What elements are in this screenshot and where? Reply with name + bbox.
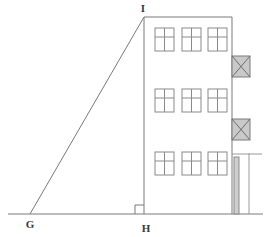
vertex-label-i: I bbox=[141, 2, 145, 14]
window bbox=[155, 28, 174, 51]
downspout-pipe bbox=[234, 157, 239, 214]
vertex-label-h: H bbox=[142, 222, 151, 234]
window bbox=[208, 28, 227, 51]
window bbox=[182, 89, 201, 112]
window bbox=[182, 28, 201, 51]
window bbox=[155, 152, 174, 175]
geometry-figure: G H I bbox=[0, 0, 271, 237]
right-angle-marker bbox=[135, 205, 144, 214]
vertex-label-g: G bbox=[26, 218, 35, 230]
window-group-bottom-floor bbox=[155, 152, 227, 175]
figure-canvas: G H I bbox=[0, 0, 271, 237]
window bbox=[208, 152, 227, 175]
hypotenuse-line-gi bbox=[30, 17, 144, 214]
window bbox=[208, 89, 227, 112]
window-group-middle-floor bbox=[155, 89, 227, 112]
window bbox=[155, 89, 174, 112]
upper-brace-box bbox=[232, 56, 250, 77]
window-group-top-floor bbox=[155, 28, 227, 51]
window bbox=[182, 152, 201, 175]
lower-brace-box bbox=[232, 119, 250, 140]
